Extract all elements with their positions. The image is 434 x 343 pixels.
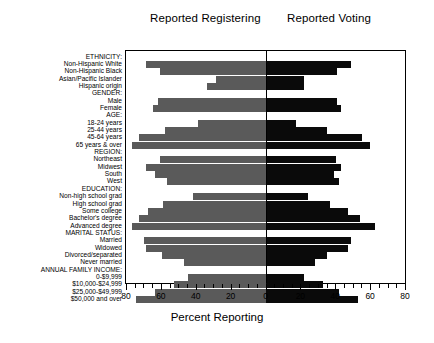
- x-axis-tick-label: 20: [287, 291, 313, 301]
- x-axis-tick-label: 80: [113, 291, 139, 301]
- bar-reported-registering: [146, 245, 266, 252]
- bar-reported-voting: [266, 76, 304, 83]
- x-axis-minor-tick: [143, 284, 144, 288]
- bar-reported-registering: [160, 156, 266, 163]
- x-axis-minor-tick: [248, 284, 249, 288]
- y-axis-category-label: Bachelor's degree: [0, 214, 122, 221]
- panel-titles: Reported Registering Reported Voting: [0, 12, 434, 30]
- x-axis-major-tick: [161, 284, 162, 290]
- y-axis-category-label: Some college: [0, 207, 122, 214]
- x-axis-minor-tick: [178, 284, 179, 288]
- x-axis-tick-label: 80: [392, 291, 418, 301]
- x-axis-tick-label: 60: [148, 291, 174, 301]
- y-axis-category-label: West: [0, 177, 122, 184]
- x-axis-minor-tick: [204, 284, 205, 288]
- bar-reported-registering: [158, 98, 266, 105]
- x-axis-minor-tick: [283, 284, 284, 288]
- legend-label-reported-registering: Reported Registering: [150, 12, 261, 24]
- bar-reported-registering: [188, 274, 266, 281]
- bar-reported-registering: [153, 105, 266, 112]
- y-axis-category-label: 18-24 years: [0, 119, 122, 126]
- x-axis-minor-tick: [361, 284, 362, 288]
- x-axis-major-tick: [266, 284, 267, 290]
- bar-reported-voting: [266, 134, 362, 141]
- bar-reported-voting: [266, 245, 348, 252]
- bar-reported-registering: [160, 68, 266, 75]
- y-axis-category-label: Widowed: [0, 244, 122, 251]
- x-axis-minor-tick: [318, 284, 319, 288]
- x-axis-minor-tick: [344, 284, 345, 288]
- legend-label-reported-voting: Reported Voting: [287, 12, 371, 24]
- bar-reported-registering: [198, 120, 266, 127]
- y-axis-category-label: Northeast: [0, 155, 122, 162]
- x-axis-minor-tick: [222, 284, 223, 288]
- y-axis-category-label: 45-64 years: [0, 133, 122, 140]
- y-axis-category-label: Married: [0, 236, 122, 243]
- bar-reported-registering: [165, 127, 266, 134]
- y-axis-group-label: GENDER:: [0, 89, 122, 96]
- x-axis-minor-tick: [170, 284, 171, 288]
- y-axis-category-label: Non-high school grad: [0, 192, 122, 199]
- y-axis-category-label: Hispanic origin: [0, 82, 122, 89]
- y-axis-category-label: 0-$9,999: [0, 273, 122, 280]
- x-axis-tick-label: 20: [218, 291, 244, 301]
- x-axis-major-tick: [300, 284, 301, 290]
- y-axis-category-label: High school grad: [0, 200, 122, 207]
- x-axis-major-tick: [335, 284, 336, 290]
- bar-reported-registering: [132, 142, 266, 149]
- bar-reported-registering: [139, 215, 266, 222]
- y-axis-category-label: South: [0, 170, 122, 177]
- y-axis-category-label: Male: [0, 97, 122, 104]
- x-axis-major-tick: [405, 284, 406, 290]
- bar-reported-voting: [266, 61, 351, 68]
- x-axis-tick-label: 40: [183, 291, 209, 301]
- x-axis-minor-tick: [396, 284, 397, 288]
- bar-reported-voting: [266, 201, 330, 208]
- bar-reported-voting: [266, 156, 336, 163]
- x-axis-minor-tick: [187, 284, 188, 288]
- x-axis-title: Percent Reporting: [0, 311, 434, 323]
- x-axis-major-tick: [126, 284, 127, 290]
- bar-reported-voting: [266, 208, 348, 215]
- x-axis-minor-tick: [257, 284, 258, 288]
- bar-reported-voting: [266, 120, 296, 127]
- y-axis-category-label: Female: [0, 104, 122, 111]
- bar-reported-voting: [266, 223, 375, 230]
- x-axis-minor-tick: [152, 284, 153, 288]
- bar-reported-registering: [193, 193, 266, 200]
- x-axis-minor-tick: [292, 284, 293, 288]
- plot-area: [125, 50, 406, 284]
- x-axis-minor-tick: [309, 284, 310, 288]
- y-axis-group-label: ANNUAL FAMILY INCOME:: [0, 266, 122, 273]
- x-axis-minor-tick: [327, 284, 328, 288]
- y-axis-category-label: 65 years & over: [0, 141, 122, 148]
- x-axis-tick-labels: 80604020020406080: [0, 291, 434, 305]
- bar-reported-registering: [155, 171, 266, 178]
- bar-reported-voting: [266, 142, 370, 149]
- x-axis-minor-tick: [388, 284, 389, 288]
- x-axis-major-tick: [196, 284, 197, 290]
- bar-reported-registering: [144, 237, 266, 244]
- y-axis-category-label: $10,000-$24,999: [0, 280, 122, 287]
- bar-reported-registering: [207, 83, 266, 90]
- y-axis-category-label: Advanced degree: [0, 222, 122, 229]
- bar-reported-registering: [167, 178, 266, 185]
- y-axis-category-label: Never married: [0, 258, 122, 265]
- x-axis-tick-label: 0: [253, 291, 279, 301]
- y-axis-group-label: AGE:: [0, 111, 122, 118]
- x-axis-major-tick: [231, 284, 232, 290]
- zero-axis-line: [266, 51, 267, 283]
- x-axis-tick-label: 60: [357, 291, 383, 301]
- bar-reported-voting: [266, 171, 334, 178]
- y-axis-group-label: MARITAL STATUS:: [0, 229, 122, 236]
- x-axis-minor-tick: [379, 284, 380, 288]
- y-axis-labels: ETHNICITY:Non-Hispanic WhiteNon-Hispanic…: [0, 50, 122, 284]
- y-axis-category-label: 25-44 years: [0, 126, 122, 133]
- x-axis-minor-tick: [274, 284, 275, 288]
- x-axis-minor-tick: [213, 284, 214, 288]
- bar-reported-voting: [266, 215, 360, 222]
- y-axis-group-label: REGION:: [0, 148, 122, 155]
- bar-reported-registering: [148, 208, 266, 215]
- bar-reported-voting: [266, 252, 327, 259]
- bar-reported-voting: [266, 237, 351, 244]
